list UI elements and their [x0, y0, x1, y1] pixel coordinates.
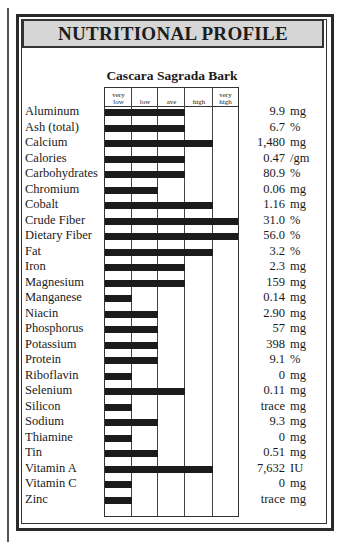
level-bar	[105, 218, 238, 225]
nutrient-amount: 9.1	[269, 352, 285, 366]
nutrient-label: Ash (total)	[25, 120, 79, 134]
nutrient-amount: 9.9	[269, 104, 285, 118]
nutrient-label: Calories	[25, 151, 67, 165]
nutrient-amount: 0.47	[263, 151, 285, 165]
nutrient-unit: mg	[290, 135, 306, 149]
nutrient-amount: 31.0	[263, 213, 285, 227]
nutrient-label: Aluminum	[25, 104, 79, 118]
level-bar	[105, 295, 132, 302]
nutrient-unit: mg	[290, 476, 306, 490]
level-bar	[105, 357, 158, 364]
nutrient-label: Carbohydrates	[25, 166, 98, 180]
nutrient-unit: %	[290, 244, 300, 258]
nutrient-unit: mg	[290, 368, 306, 382]
nutrient-unit: mg	[290, 492, 306, 506]
nutrient-unit: mg	[290, 306, 306, 320]
nutrient-amount: 7,632	[257, 461, 285, 475]
nutrient-unit: mg	[290, 383, 306, 397]
level-bar	[105, 125, 185, 132]
nutrient-amount: 9.3	[269, 414, 285, 428]
page-title: NUTRITIONAL PROFILE	[58, 23, 288, 45]
nutrient-amount: trace	[261, 492, 285, 506]
nutrient-amount: 2.90	[263, 306, 285, 320]
scale-label-high: high	[185, 88, 213, 106]
level-bar	[105, 481, 132, 488]
nutrient-label: Protein	[25, 352, 61, 366]
level-bar	[105, 249, 213, 256]
level-bar	[105, 233, 238, 240]
nutrient-unit: mg	[290, 445, 306, 459]
nutrient-label: Fat	[25, 244, 41, 258]
header-banner: NUTRITIONAL PROFILE	[22, 19, 324, 48]
nutrient-label: Silicon	[25, 399, 60, 413]
nutrient-amount: 0	[279, 476, 285, 490]
level-bar	[105, 342, 158, 349]
nutrient-amount: 0.14	[263, 290, 285, 304]
nutrient-label: Crude Fiber	[25, 213, 85, 227]
nutrient-label: Dietary Fiber	[25, 228, 92, 242]
nutrient-label: Vitamin C	[25, 476, 77, 490]
nutrient-amount: 3.2	[269, 244, 285, 258]
nutrient-amount: 6.7	[269, 120, 285, 134]
scale-label-ave: ave	[158, 88, 185, 106]
nutrient-label: Vitamin A	[25, 461, 77, 475]
nutrient-unit: mg	[290, 414, 306, 428]
nutrient-amount: 159	[266, 275, 285, 289]
nutrient-label: Sodium	[25, 414, 64, 428]
nutrient-amount: 0.11	[264, 383, 285, 397]
nutrient-label: Calcium	[25, 135, 67, 149]
nutrient-label: Thiamine	[25, 430, 73, 444]
nutrient-unit: mg	[290, 259, 306, 273]
level-bar	[105, 171, 185, 178]
nutrient-unit: mg	[290, 182, 306, 196]
level-bar	[105, 156, 185, 163]
scale-header: verylowlowavehighveryhigh	[105, 88, 238, 107]
nutrient-unit: %	[290, 352, 300, 366]
nutrient-label: Potassium	[25, 337, 76, 351]
chart-title: Cascara Sagrada Bark	[104, 68, 240, 84]
nutrient-amount: 57	[273, 321, 286, 335]
level-bar	[105, 326, 158, 333]
nutrient-amount: 56.0	[263, 228, 285, 242]
scale-divider	[212, 88, 213, 516]
level-bar	[105, 140, 213, 147]
nutrient-amount: 398	[266, 337, 285, 351]
nutrient-label: Magnesium	[25, 275, 84, 289]
level-bar	[105, 373, 132, 380]
nutrient-unit: mg	[290, 275, 306, 289]
level-bar	[105, 264, 185, 271]
nutrient-amount: 0	[279, 368, 285, 382]
nutrient-unit: mg	[290, 290, 306, 304]
nutrient-unit: mg	[290, 321, 306, 335]
nutrient-unit: %	[290, 228, 300, 242]
nutrient-unit: mg	[290, 399, 306, 413]
level-bar	[105, 311, 158, 318]
nutrient-unit: IU	[290, 461, 303, 475]
nutrient-label: Cobalt	[25, 197, 58, 211]
nutrient-unit: mg	[290, 337, 306, 351]
nutrient-unit: mg	[290, 104, 306, 118]
nutrient-label: Iron	[25, 259, 46, 273]
nutrient-amount: 2.3	[269, 259, 285, 273]
level-bar	[105, 109, 185, 116]
nutrient-label: Phosphorus	[25, 321, 83, 335]
level-bar	[105, 450, 158, 457]
scale-label-low: low	[132, 88, 158, 106]
nutrient-amount: 0.51	[263, 445, 285, 459]
level-bar	[105, 202, 213, 209]
nutrient-unit: mg	[290, 197, 306, 211]
level-bar	[105, 187, 158, 194]
nutrient-unit: %	[290, 213, 300, 227]
level-bar	[105, 280, 185, 287]
nutrient-amount: 1,480	[257, 135, 285, 149]
nutrient-label: Niacin	[25, 306, 58, 320]
nutrient-amount: 0.06	[263, 182, 285, 196]
nutrient-label: Manganese	[25, 290, 82, 304]
nutrient-amount: trace	[261, 399, 285, 413]
level-bar	[105, 435, 132, 442]
level-bar	[105, 497, 132, 504]
nutrient-label: Selenium	[25, 383, 72, 397]
nutrient-unit: mg	[290, 430, 306, 444]
nutrient-amount: 1.16	[263, 197, 285, 211]
level-bar	[105, 404, 132, 411]
